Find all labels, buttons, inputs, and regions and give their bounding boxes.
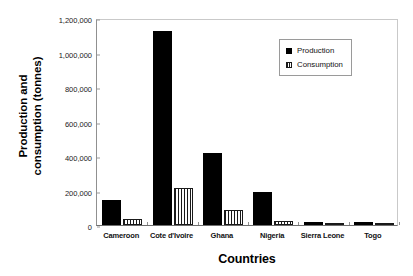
legend-label-consumption: Consumption [297,60,343,69]
bar-production [253,192,272,225]
x-axis-tick-label: Sierra Leone [297,231,347,240]
y-axis-title: Production and consumption (tonnes) [8,0,52,232]
x-axis-tick-mark [399,222,400,225]
x-axis-tick-mark [147,222,148,225]
bar-series-container [97,20,397,225]
bar-production [354,222,373,225]
x-axis-tick-mark [198,222,199,225]
x-axis-tick-label: Cameroon [96,231,146,240]
x-axis-tick-label: Ghana [197,231,247,240]
y-axis-tick-label: 400,000 [65,154,97,163]
plot-area: 0200,000400,000600,000800,0001,000,0001,… [96,19,398,226]
legend-item-consumption: Consumption [286,59,343,70]
x-axis-tick-label: Nigeria [247,231,297,240]
y-axis-tick-label: 600,000 [65,119,97,128]
y-axis-title-line2: consumption (tonnes) [30,57,44,176]
bar-production [153,31,172,225]
bar-production [203,153,222,225]
y-axis-tick-label: 1,000,000 [59,50,97,59]
bar-consumption [325,223,344,225]
chart-legend: Production Consumption [279,39,352,76]
legend-swatch-production-icon [286,48,292,54]
bar-production [304,222,323,225]
bar-consumption [123,219,142,225]
bar-production [102,200,121,225]
legend-swatch-consumption-icon [286,62,292,68]
x-axis-tick-mark [248,222,249,225]
legend-label-production: Production [297,46,334,55]
y-axis-tick-label: 800,000 [65,85,97,94]
x-axis-tick-mark [349,222,350,225]
bar-chart-figure: Production and consumption (tonnes) 0200… [0,0,413,276]
legend-item-production: Production [286,45,343,56]
bar-consumption [224,210,243,225]
y-axis-tick-label: 1,200,000 [59,16,97,25]
x-axis-tick-mark [298,222,299,225]
x-axis-title: Countries [96,252,398,266]
y-axis-tick-mark [97,227,100,228]
y-axis-title-line1: Production and [17,75,29,158]
x-axis-tick-label: Cote d'Ivoire [146,231,196,240]
bar-consumption [274,221,293,225]
x-axis-tick-label: Togo [348,231,398,240]
y-axis-tick-label: 200,000 [65,188,97,197]
bar-consumption [174,188,193,225]
bar-consumption [375,223,394,225]
